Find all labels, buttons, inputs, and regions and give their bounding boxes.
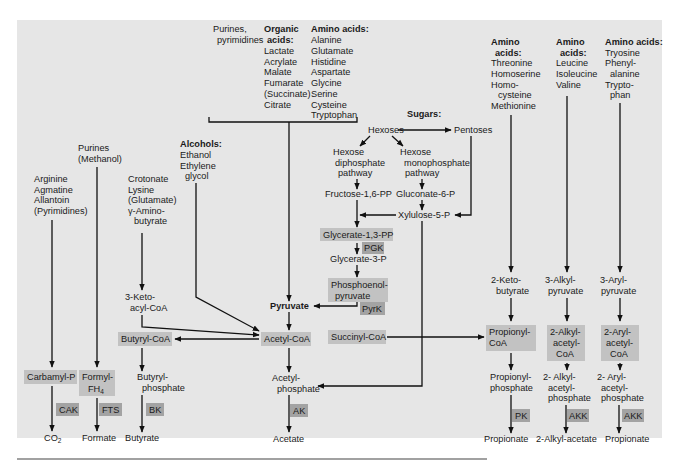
propionyl-coa-label: Propionyl- — [489, 327, 530, 337]
acetyl-coa-label: Acetyl-CoA — [264, 334, 311, 344]
butyryl-phosphate-label: phosphate — [142, 383, 185, 393]
source-item: Threonine — [491, 58, 532, 68]
alkyl-acetate-product: 2-Alkyl-acetate — [536, 434, 597, 444]
source-item: Leucine — [556, 58, 588, 68]
formate-product: Formate — [82, 433, 116, 443]
akk-enzyme-label: AKK — [569, 411, 588, 421]
group-title: acids: — [267, 35, 294, 45]
pathway-label: pathway — [405, 168, 440, 178]
source-item: Alanine — [311, 35, 342, 45]
group-title: Amino — [491, 37, 520, 47]
ak-enzyme-label: AK — [293, 406, 306, 416]
source-item: glycol — [185, 171, 209, 181]
source-item: Crotonate — [128, 174, 168, 184]
source-item: Agmatine — [34, 185, 73, 195]
butyryl-coa-label: Butyryl-CoA — [121, 334, 171, 344]
pgk-enzyme-label: PGK — [364, 243, 384, 253]
group-title: Amino acids: — [311, 24, 369, 34]
source-item: Ethylene — [180, 161, 216, 171]
aryl-acetyl-phosphate-label: 2- Aryl- — [597, 372, 626, 382]
carbamyl-p-label: Carbamyl-P — [27, 372, 76, 382]
xylulose-5p-label: Xylulose-5-P — [398, 210, 450, 220]
source-item: Glutamate — [311, 46, 353, 56]
alkyl-pyruvate-label: pyruvate — [548, 286, 583, 296]
group-title: Amino acids: — [605, 37, 663, 47]
source-item: Phenyl- — [605, 58, 636, 68]
butyryl-phosphate-label: Butyryl- — [137, 372, 168, 382]
aryl-acetyl-coa-label: 2-Aryl- — [604, 327, 631, 337]
keto-acyl-coa-label: acyl-CoA — [130, 303, 168, 313]
source-item: alanine — [610, 69, 640, 79]
propionate-product-1: Propionate — [484, 434, 528, 444]
source-item: (Glutamate) — [128, 195, 177, 205]
source-item: Valine — [556, 80, 581, 90]
source-item: Lysine — [128, 185, 154, 195]
source-label: pyrimidines — [217, 35, 264, 45]
source-item: Lactate — [264, 46, 294, 56]
keto-acyl-coa-label: 3-Keto- — [125, 292, 155, 302]
pentoses-label: Pentoses — [454, 125, 493, 135]
source-item: Serine — [311, 89, 338, 99]
source-item: Purines — [78, 143, 110, 153]
acetate-product: Acetate — [273, 434, 304, 444]
akk-enzyme-label: AKK — [624, 411, 643, 421]
propionyl-coa-label: CoA — [489, 338, 508, 348]
source-label: Purines, — [213, 24, 247, 34]
source-item: cysteine — [498, 90, 532, 100]
source-item: Malate — [264, 67, 292, 77]
bk-enzyme-label: BK — [149, 405, 162, 415]
source-item: Arginine — [34, 174, 68, 184]
source-item: γ-Amino- — [128, 206, 165, 216]
alkyl-acetyl-phosphate-label: phosphate — [548, 393, 591, 403]
pyruvate-label: Pyruvate — [270, 301, 309, 311]
group-title: acids: — [560, 48, 587, 58]
source-item: Allantoin — [34, 195, 69, 205]
pathway-label: diphosphate — [335, 158, 385, 168]
butyrate-product: Butyrate — [125, 433, 159, 443]
source-item: Citrate — [264, 100, 291, 110]
cak-enzyme-label: CAK — [59, 405, 79, 415]
aryl-pyruvate-label: 3-Aryl- — [600, 275, 627, 285]
gluconate-6p-label: Gluconate-6-P — [396, 189, 455, 199]
propionyl-phosphate-label: phosphate — [490, 383, 533, 393]
group-title: acids: — [495, 48, 522, 58]
aryl-acetyl-coa-label: acetyl- — [606, 338, 633, 348]
source-item: Cysteine — [311, 100, 347, 110]
keto-butyrate-label: butyrate — [496, 286, 529, 296]
source-item: phan — [610, 90, 630, 100]
source-item: Aspartate — [311, 67, 350, 77]
source-item: Ethanol — [180, 150, 211, 160]
alkyl-acetyl-coa-label: acetyl- — [553, 338, 580, 348]
source-item: Tryptophan — [311, 110, 357, 120]
fts-enzyme-label: FTS — [102, 405, 119, 415]
source-item: Methionine — [491, 101, 536, 111]
alkyl-acetyl-phosphate-label: acetyl- — [548, 383, 575, 393]
source-item: Acrylate — [264, 57, 297, 67]
phosphoenolpyruvate-label: Phosphoenol- — [331, 280, 388, 290]
source-item: Homo- — [491, 80, 519, 90]
formyl-fh4-label: Formyl- — [82, 372, 113, 382]
sugars-title: Sugars: — [407, 109, 441, 119]
pathway-label: Hexose — [400, 147, 431, 157]
alkyl-acetyl-coa-label: 2-Alkyl- — [550, 327, 581, 337]
pathway-label: monophosphate — [404, 158, 470, 168]
group-title: Amino — [556, 37, 585, 47]
source-item: Histidine — [311, 57, 346, 67]
pyrk-enzyme-label: PyrK — [362, 304, 383, 314]
propionyl-phosphate-label: Propionyl- — [490, 372, 531, 382]
pk-enzyme-label: PK — [515, 411, 528, 421]
alkyl-acetyl-coa-label: CoA — [556, 349, 575, 359]
source-item: Homoserine — [491, 69, 541, 79]
acetyl-phosphate-label: Acetyl- — [272, 373, 300, 383]
source-item: Fumarate — [264, 78, 303, 88]
phosphoenolpyruvate-label: pyruvate — [335, 291, 370, 301]
fructose-16pp-label: Fructose-1,6-PP — [325, 189, 392, 199]
aryl-acetyl-coa-label: CoA — [610, 349, 629, 359]
aryl-acetyl-phosphate-label: phosphate — [601, 393, 644, 403]
pathway-label: Hexose — [333, 147, 364, 157]
source-item: (Succinate) — [264, 89, 310, 99]
aryl-pyruvate-label: pyruvate — [601, 286, 636, 296]
keto-butyrate-label: 2-Keto- — [491, 275, 521, 285]
glycerate-13pp-label: Glycerate-1,3-PP — [323, 230, 393, 240]
source-item: (Methanol) — [78, 154, 122, 164]
